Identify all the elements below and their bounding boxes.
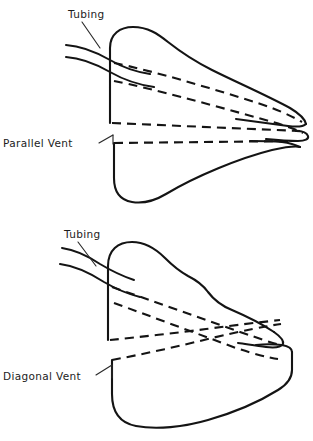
leader-parallel-vent bbox=[99, 135, 113, 143]
leader-diagonal-vent bbox=[96, 365, 112, 375]
label-tubing-bottom: Tubing bbox=[63, 228, 100, 240]
tubing-upper-wall-bottom bbox=[62, 248, 134, 280]
tip-hook-top bbox=[236, 119, 306, 127]
diagonal-vent-diagram: Tubing Diagonal Vent bbox=[3, 228, 292, 428]
upper-body-outline-bottom bbox=[108, 242, 274, 332]
label-tubing-top: Tubing bbox=[67, 8, 104, 20]
parallel-vent-diagram: Tubing Parallel Vent bbox=[3, 8, 308, 203]
technical-diagram-figure: Tubing Parallel Vent bbox=[0, 0, 313, 441]
lower-lobe-outline-bottom bbox=[112, 352, 292, 428]
hidden-passage-2-bottom bbox=[114, 303, 278, 359]
lower-lobe-outline-top bbox=[114, 143, 300, 203]
label-diagonal-vent: Diagonal Vent bbox=[3, 370, 81, 382]
diagram-canvas: Tubing Parallel Vent bbox=[0, 0, 313, 441]
label-parallel-vent: Parallel Vent bbox=[3, 137, 73, 149]
leader-tubing-top bbox=[82, 22, 100, 48]
return-channel-lower-top bbox=[266, 131, 308, 141]
